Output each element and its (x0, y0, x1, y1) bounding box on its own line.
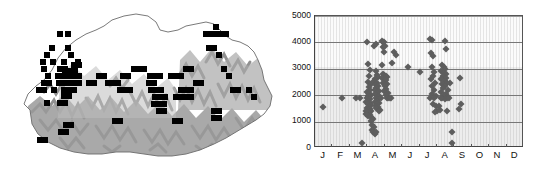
map-record-square (161, 108, 167, 114)
y-tick-label: 2000 (281, 90, 311, 99)
map-record-square (66, 93, 72, 99)
map-record-square (65, 45, 71, 51)
x-tick-label-s-8: S (454, 150, 470, 160)
x-tick-mark (471, 144, 472, 147)
map-record-square (178, 73, 184, 79)
map-record-square (42, 137, 48, 143)
map-record-square (161, 101, 167, 107)
map-record-square (44, 100, 50, 106)
map-record-square (216, 52, 222, 58)
map-record-square (177, 118, 183, 124)
distribution-map-panel (0, 0, 280, 174)
map-record-square (198, 80, 204, 86)
x-tick-label-j-0: J (315, 150, 331, 160)
x-tick-label-j-6: J (419, 150, 435, 160)
map-record-square (68, 122, 74, 128)
x-tick-mark (506, 144, 507, 147)
map-record-square (61, 59, 67, 65)
map-record-square (125, 73, 131, 79)
map-record-square (157, 73, 163, 79)
map-record-square (41, 66, 47, 72)
map-record-square (46, 80, 52, 86)
x-tick-label-a-3: A (367, 150, 383, 160)
map-record-square (226, 73, 232, 79)
x-tick-mark (436, 144, 437, 147)
plot-vertical-striping (315, 16, 522, 146)
map-record-square (216, 108, 222, 114)
map-record-square (223, 31, 229, 37)
map-record-square (127, 87, 133, 93)
x-tick-mark (488, 144, 489, 147)
x-tick-mark (314, 144, 315, 147)
map-record-square (246, 87, 252, 93)
map-record-square (158, 87, 164, 93)
map-record-square (49, 45, 55, 51)
map-record-square (91, 80, 97, 86)
x-tick-label-a-7: A (437, 150, 453, 160)
x-tick-label-m-2: M (350, 150, 366, 160)
x-tick-label-o-9: O (471, 150, 487, 160)
y-axis-line (314, 15, 315, 147)
x-tick-label-n-10: N (489, 150, 505, 160)
map-record-square (188, 87, 194, 93)
map-record-square (44, 52, 50, 58)
map-record-square (235, 87, 241, 93)
figure-root: 500040003000200010000 JFMAMJJASOND (0, 0, 551, 174)
x-tick-mark (419, 144, 420, 147)
map-record-square (72, 68, 78, 74)
y-tick-label: 5000 (281, 11, 311, 20)
map-record-square (211, 45, 217, 51)
map-record-square (216, 115, 222, 121)
y-tick-label: 0 (281, 143, 311, 152)
gridline-4000 (315, 42, 522, 43)
elevation-scatter-panel: 500040003000200010000 JFMAMJJASOND (281, 0, 551, 174)
map-record-square (68, 52, 74, 58)
map-record-square (57, 31, 63, 37)
x-tick-mark (453, 144, 454, 147)
y-tick-label: 1000 (281, 116, 311, 125)
x-tick-mark (349, 144, 350, 147)
gridline-1000 (315, 122, 522, 123)
map-record-square (188, 66, 194, 72)
map-record-square (63, 129, 69, 135)
map-record-square (188, 94, 194, 100)
map-record-square (62, 100, 68, 106)
x-tick-label-f-1: F (332, 150, 348, 160)
map-record-square (41, 87, 47, 93)
map-record-square (50, 59, 56, 65)
map-record-square (141, 66, 147, 72)
map-record-square (221, 66, 227, 72)
map-record-square (151, 80, 157, 86)
map-record-square (65, 31, 71, 37)
map-record-square (213, 24, 219, 30)
map-record-square (251, 94, 257, 100)
map-record-square (115, 80, 121, 86)
x-tick-mark (384, 144, 385, 147)
map-record-square (76, 80, 82, 86)
gridline-5000 (315, 16, 522, 17)
x-tick-label-j-5: J (402, 150, 418, 160)
x-tick-label-d-11: D (506, 150, 522, 160)
x-tick-mark (331, 144, 332, 147)
map-record-square (162, 94, 168, 100)
map-record-square (101, 73, 107, 79)
x-tick-label-m-4: M (384, 150, 400, 160)
x-tick-mark (366, 144, 367, 147)
y-tick-label: 4000 (281, 37, 311, 46)
gridline-2000 (315, 95, 522, 96)
map-record-square (40, 59, 46, 65)
y-tick-label: 3000 (281, 63, 311, 72)
plot-area (314, 15, 523, 147)
x-tick-mark (401, 144, 402, 147)
map-record-square (51, 87, 57, 93)
map-record-square (45, 73, 51, 79)
map-record-square (117, 118, 123, 124)
